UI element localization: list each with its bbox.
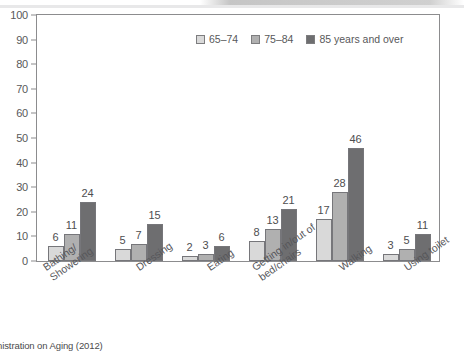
y-axis-tick-label: 90 bbox=[16, 34, 28, 46]
bar: 28 bbox=[332, 192, 348, 261]
x-axis: Bathing/ ShoweringDressingEatingGetting … bbox=[37, 264, 439, 334]
bar: 3 bbox=[383, 254, 399, 261]
y-axis-tick-label: 80 bbox=[16, 58, 28, 70]
bar-group: 81321 bbox=[238, 15, 305, 261]
bar-value-label: 46 bbox=[341, 133, 371, 145]
bar-value-label: 15 bbox=[140, 209, 170, 221]
bars-layer: 611245715236813211728463511 bbox=[37, 15, 439, 261]
bar-value-label: 6 bbox=[207, 231, 237, 243]
bar: 46 bbox=[348, 148, 364, 261]
bar-value-label: 21 bbox=[274, 194, 304, 206]
y-axis: 0102030405060708090100 bbox=[0, 14, 36, 262]
bar-value-label: 24 bbox=[73, 187, 103, 199]
y-axis-tick-label: 20 bbox=[16, 206, 28, 218]
y-axis-tick-label: 100 bbox=[10, 9, 28, 21]
y-axis-tick-label: 50 bbox=[16, 132, 28, 144]
y-axis-tick-label: 30 bbox=[16, 181, 28, 193]
source-caption: inistration on Aging (2012) bbox=[0, 340, 103, 351]
bar-group: 61124 bbox=[37, 15, 104, 261]
y-axis-tick-label: 10 bbox=[16, 230, 28, 242]
bar-group: 3511 bbox=[372, 15, 439, 261]
bar: 2 bbox=[182, 256, 198, 261]
bar-group: 172846 bbox=[305, 15, 372, 261]
y-axis-tick-label: 0 bbox=[22, 255, 28, 267]
bar-group: 236 bbox=[171, 15, 238, 261]
y-axis-tick-label: 40 bbox=[16, 157, 28, 169]
bar-value-label: 11 bbox=[408, 219, 438, 231]
bar-group: 5715 bbox=[104, 15, 171, 261]
bar: 5 bbox=[115, 249, 131, 261]
grouped-bar-chart: 0102030405060708090100 65–7475–8485 year… bbox=[0, 0, 464, 358]
y-axis-tick-label: 60 bbox=[16, 107, 28, 119]
y-axis-tick-label: 70 bbox=[16, 83, 28, 95]
